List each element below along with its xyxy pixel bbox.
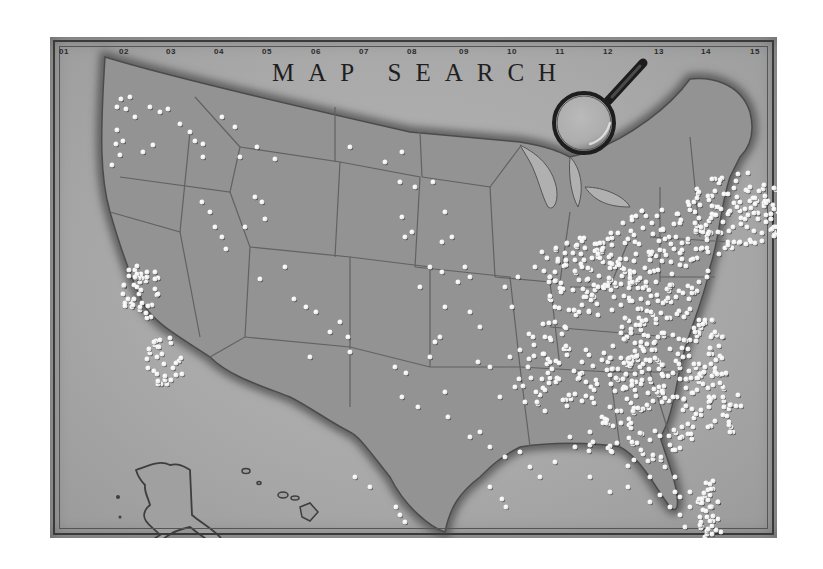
map-pin[interactable] (772, 234, 777, 239)
map-pin[interactable] (503, 455, 508, 460)
map-pin[interactable] (609, 231, 614, 236)
map-pin[interactable] (762, 183, 767, 188)
map-pin[interactable] (547, 321, 552, 326)
map-pin[interactable] (667, 434, 672, 439)
map-pin[interactable] (726, 243, 731, 248)
map-pin[interactable] (708, 399, 713, 404)
map-pin[interactable] (200, 200, 205, 205)
map-pin[interactable] (145, 270, 150, 275)
map-pin[interactable] (699, 413, 704, 418)
map-pin[interactable] (238, 155, 243, 160)
map-pin[interactable] (659, 455, 664, 460)
map-pin[interactable] (746, 171, 751, 176)
map-pin[interactable] (169, 341, 174, 346)
map-pin[interactable] (656, 335, 661, 340)
map-pin[interactable] (538, 475, 543, 480)
map-pin[interactable] (147, 347, 152, 352)
map-pin[interactable] (595, 382, 600, 387)
map-pin[interactable] (171, 366, 176, 371)
map-pin[interactable] (653, 356, 658, 361)
map-pin[interactable] (711, 514, 716, 519)
map-pin[interactable] (697, 280, 702, 285)
map-pin[interactable] (155, 355, 160, 360)
map-pin[interactable] (508, 355, 513, 360)
map-pin[interactable] (258, 277, 263, 282)
map-pin[interactable] (642, 349, 647, 354)
map-pin[interactable] (592, 388, 597, 393)
map-pin[interactable] (705, 275, 710, 280)
map-pin[interactable] (706, 386, 711, 391)
map-pin[interactable] (308, 355, 313, 360)
map-pin[interactable] (764, 201, 769, 206)
map-pin[interactable] (413, 185, 418, 190)
map-pin[interactable] (709, 216, 714, 221)
map-pin[interactable] (639, 382, 644, 387)
map-pin[interactable] (652, 387, 657, 392)
map-pin[interactable] (564, 263, 569, 268)
map-pin[interactable] (668, 283, 673, 288)
map-pin[interactable] (639, 448, 644, 453)
map-pin[interactable] (690, 437, 695, 442)
map-pin[interactable] (658, 493, 663, 498)
map-pin[interactable] (724, 371, 729, 376)
map-pin[interactable] (728, 430, 733, 435)
map-pin[interactable] (726, 212, 731, 217)
map-pin[interactable] (627, 319, 632, 324)
map-pin[interactable] (400, 395, 405, 400)
map-pin[interactable] (630, 218, 635, 223)
map-pin[interactable] (255, 145, 260, 150)
map-pin[interactable] (633, 388, 638, 393)
map-pin[interactable] (646, 301, 651, 306)
map-pin[interactable] (590, 256, 595, 261)
map-pin[interactable] (510, 305, 515, 310)
map-pin[interactable] (253, 195, 258, 200)
map-pin[interactable] (463, 265, 468, 270)
map-pin[interactable] (772, 186, 777, 191)
map-pin[interactable] (131, 303, 136, 308)
map-pin[interactable] (753, 196, 758, 201)
map-pin[interactable] (667, 399, 672, 404)
map-pin[interactable] (179, 356, 184, 361)
map-pin[interactable] (546, 371, 551, 376)
map-pin[interactable] (671, 395, 676, 400)
map-board[interactable]: 01 02 03 04 05 06 07 08 09 10 11 12 13 1… (50, 37, 777, 538)
map-pin[interactable] (673, 490, 678, 495)
map-pin[interactable] (488, 365, 493, 370)
map-pin[interactable] (738, 200, 743, 205)
map-pin[interactable] (684, 386, 689, 391)
map-pin[interactable] (648, 359, 653, 364)
map-pin[interactable] (691, 391, 696, 396)
map-pin[interactable] (577, 278, 582, 283)
map-pin[interactable] (553, 270, 558, 275)
map-pin[interactable] (138, 305, 143, 310)
map-pin[interactable] (678, 377, 683, 382)
map-pin[interactable] (622, 294, 627, 299)
map-pin[interactable] (118, 153, 123, 158)
map-pin[interactable] (648, 270, 653, 275)
map-pin[interactable] (672, 222, 677, 227)
map-pin[interactable] (586, 266, 591, 271)
map-pin[interactable] (141, 150, 146, 155)
map-pin[interactable] (174, 361, 179, 366)
map-pin[interactable] (654, 254, 659, 259)
map-pin[interactable] (632, 458, 637, 463)
map-pin[interactable] (716, 230, 721, 235)
map-pin[interactable] (629, 426, 634, 431)
map-pin[interactable] (716, 517, 721, 522)
map-pin[interactable] (133, 275, 138, 280)
map-pin[interactable] (535, 400, 540, 405)
map-pin[interactable] (690, 286, 695, 291)
map-pin[interactable] (710, 177, 715, 182)
map-pin[interactable] (644, 318, 649, 323)
map-pin[interactable] (619, 282, 624, 287)
map-pin[interactable] (273, 157, 278, 162)
map-pin[interactable] (156, 292, 161, 297)
map-pin[interactable] (686, 347, 691, 352)
map-pin[interactable] (157, 345, 162, 350)
map-pin[interactable] (534, 390, 539, 395)
map-pin[interactable] (549, 338, 554, 343)
map-pin[interactable] (652, 341, 657, 346)
map-pin[interactable] (174, 373, 179, 378)
map-pin[interactable] (428, 355, 433, 360)
map-pin[interactable] (660, 363, 665, 368)
